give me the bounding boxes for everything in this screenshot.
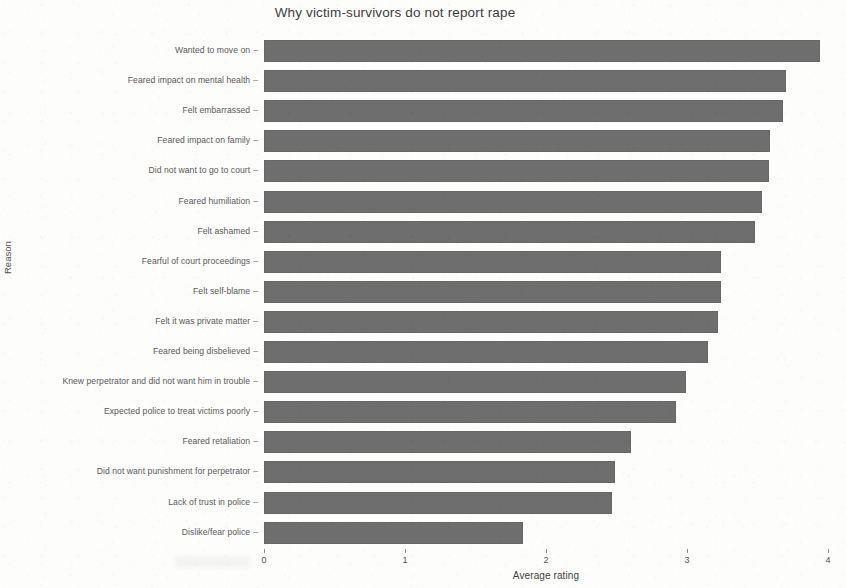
bar (264, 341, 708, 363)
y-tick-label: Felt ashamed– (0, 226, 258, 236)
y-tick-label-text: Felt embarrassed (182, 105, 250, 115)
x-tick-mark (828, 549, 829, 553)
y-tick-mark: – (253, 135, 258, 145)
bar (264, 311, 718, 333)
y-tick-label-text: Feared being disbelieved (153, 346, 250, 356)
x-tick-label: 3 (684, 555, 689, 565)
x-tick-label: 4 (825, 555, 830, 565)
x-tick-mark (405, 549, 406, 553)
bar (264, 251, 721, 273)
y-tick-label: Lack of trust in police– (0, 497, 258, 507)
y-tick-label: Felt self-blame– (0, 286, 258, 296)
y-tick-label-text: Feared impact on family (157, 135, 250, 145)
y-tick-label: Feared impact on family– (0, 135, 258, 145)
bar-chart: Why victim-survivors do not report rape … (0, 0, 846, 588)
x-tick-mark (546, 549, 547, 553)
y-tick-label-text: Feared humiliation (179, 196, 251, 206)
y-tick-label: Felt it was private matter– (0, 316, 258, 326)
bar (264, 281, 721, 303)
scan-artifact (175, 556, 250, 568)
bar (264, 100, 783, 122)
y-tick-label-text: Felt self-blame (193, 286, 250, 296)
chart-title-text: Why victim-survivors do not report rape (275, 5, 516, 20)
y-tick-label: Did not want to go to court– (0, 165, 258, 175)
x-tick-mark (687, 549, 688, 553)
bar (264, 70, 786, 92)
y-tick-mark: – (253, 75, 258, 85)
y-tick-label-text: Knew perpetrator and did not want him in… (62, 376, 250, 386)
y-tick-mark: – (253, 45, 258, 55)
y-tick-mark: – (253, 196, 258, 206)
bar (264, 40, 820, 62)
x-axis: 01234 (264, 549, 828, 550)
y-tick-label: Wanted to move on– (0, 45, 258, 55)
y-tick-mark: – (253, 527, 258, 537)
y-tick-label: Feared humiliation– (0, 196, 258, 206)
y-tick-mark: – (253, 286, 258, 296)
bar (264, 371, 686, 393)
y-tick-mark: – (253, 497, 258, 507)
x-axis-title: Average rating (264, 570, 828, 581)
y-tick-mark: – (253, 466, 258, 476)
y-tick-label-text: Feared impact on mental health (128, 75, 250, 85)
bar (264, 160, 769, 182)
bar (264, 492, 612, 514)
x-tick-label: 2 (543, 555, 548, 565)
y-tick-mark: – (253, 105, 258, 115)
bar (264, 431, 631, 453)
y-tick-mark: – (253, 256, 258, 266)
y-tick-label: Expected police to treat victims poorly– (0, 406, 258, 416)
y-tick-label-text: Fearful of court proceedings (142, 256, 250, 266)
bar (264, 522, 523, 544)
y-tick-mark: – (253, 346, 258, 356)
x-tick-label: 1 (402, 555, 407, 565)
bar (264, 221, 755, 243)
x-tick-mark (264, 549, 265, 553)
y-tick-mark: – (253, 436, 258, 446)
y-tick-label: Dislike/fear police– (0, 527, 258, 537)
y-tick-label: Did not want punishment for perpetrator– (0, 466, 258, 476)
y-tick-mark: – (253, 376, 258, 386)
y-tick-label-text: Did not want to go to court (148, 165, 250, 175)
y-tick-label: Feared being disbelieved– (0, 346, 258, 356)
y-tick-label: Fearful of court proceedings– (0, 256, 258, 266)
x-tick-label: 0 (261, 555, 266, 565)
y-tick-label: Knew perpetrator and did not want him in… (0, 376, 258, 386)
y-tick-label: Felt embarrassed– (0, 105, 258, 115)
y-tick-label-text: Dislike/fear police (182, 527, 250, 537)
y-tick-label-text: Feared retaliation (182, 436, 250, 446)
plot-area (264, 31, 828, 549)
bar (264, 461, 615, 483)
y-tick-mark: – (253, 316, 258, 326)
bar (264, 401, 676, 423)
y-tick-mark: – (253, 165, 258, 175)
y-tick-label-text: Felt it was private matter (155, 316, 250, 326)
y-tick-label-text: Did not want punishment for perpetrator (97, 466, 250, 476)
y-tick-mark: – (253, 406, 258, 416)
y-tick-mark: – (253, 226, 258, 236)
y-tick-label-text: Lack of trust in police (168, 497, 250, 507)
y-tick-label-text: Wanted to move on (175, 45, 250, 55)
y-tick-label: Feared impact on mental health– (0, 75, 258, 85)
y-tick-label-text: Expected police to treat victims poorly (104, 406, 250, 416)
y-tick-label-text: Felt ashamed (197, 226, 250, 236)
y-tick-label: Feared retaliation– (0, 436, 258, 446)
chart-title: Why victim-survivors do not report rape (0, 5, 846, 20)
bar (264, 191, 762, 213)
bar (264, 130, 770, 152)
